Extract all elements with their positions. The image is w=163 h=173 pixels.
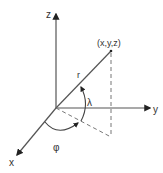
x-axis bbox=[17, 108, 56, 155]
point-label: (x,y,z) bbox=[97, 38, 121, 48]
spherical-coordinates-diagram: z y x (x,y,z) r λ φ bbox=[0, 0, 163, 173]
radius-label: r bbox=[77, 70, 80, 80]
point-marker bbox=[110, 50, 113, 53]
x-axis-label: x bbox=[9, 157, 14, 168]
azimuth-angle-arc bbox=[45, 122, 78, 130]
z-axis-label: z bbox=[46, 9, 51, 20]
radius-line bbox=[56, 51, 111, 108]
y-axis-label: y bbox=[153, 104, 158, 115]
elevation-angle-arc bbox=[81, 87, 86, 121]
horizontal-projection-line bbox=[56, 108, 111, 137]
azimuth-angle-label: φ bbox=[53, 142, 60, 153]
elevation-angle-label: λ bbox=[87, 97, 92, 108]
